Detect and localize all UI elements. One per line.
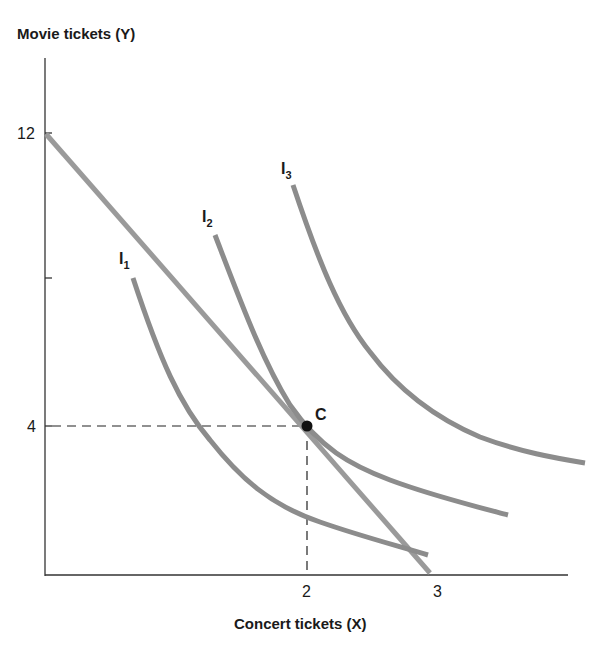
- x-axis-title: Concert tickets (X): [234, 615, 367, 632]
- indifference-curve-i1: [133, 278, 428, 555]
- indifference-curve-i3: [293, 185, 585, 463]
- i1-label: I1: [119, 250, 130, 271]
- y-tick-label-4: 4: [27, 418, 36, 435]
- x-tick-label-2: 2: [302, 583, 311, 600]
- i3-label: I3: [281, 160, 292, 181]
- x-tick-label-3: 3: [433, 583, 442, 600]
- point-c-marker: [302, 421, 313, 432]
- y-tick-label-12: 12: [17, 125, 35, 142]
- i2-label: I2: [202, 208, 213, 229]
- point-c-label: C: [315, 406, 327, 423]
- indifference-curve-chart: C I1 I2 I3 12 4 2 3 Movie tickets (Y) Co…: [0, 0, 604, 649]
- y-axis-title: Movie tickets (Y): [17, 25, 135, 42]
